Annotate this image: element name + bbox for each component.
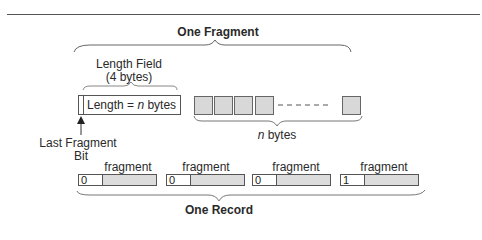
arrow-up-icon — [77, 116, 85, 124]
length-field-value: Length = n bytes — [87, 98, 176, 112]
payload-byte — [234, 96, 253, 115]
length-field-label: Length Field — [96, 57, 162, 71]
last-fragment-bit-cell — [79, 96, 84, 114]
fragment-label: fragment — [182, 160, 229, 174]
fragment-flag: 0 — [252, 174, 277, 186]
fragment-brace — [74, 40, 351, 52]
last-fragment-bit-label: Last Fragment — [39, 136, 116, 150]
fragment-data — [102, 174, 157, 186]
record-title: One Record — [185, 203, 253, 217]
fragment-flag: 0 — [78, 174, 103, 186]
fragment-flag: 1 — [340, 174, 365, 186]
payload-size-label: n bytes — [258, 128, 297, 142]
record-brace — [77, 190, 425, 201]
payload-byte — [194, 96, 213, 115]
fragment-data — [190, 174, 245, 186]
length-field-box: Length = n bytes — [78, 95, 181, 115]
last-fragment-bit-label-line2: Bit — [74, 149, 88, 163]
fragment-label: fragment — [272, 160, 319, 174]
payload-brace — [194, 116, 362, 126]
fragment-label: fragment — [360, 160, 407, 174]
payload-byte — [214, 96, 233, 115]
payload-byte — [255, 96, 274, 115]
fragment-data — [364, 174, 419, 186]
fragment-label: fragment — [104, 160, 151, 174]
fragment-data — [276, 174, 331, 186]
fragment-flag: 0 — [166, 174, 191, 186]
length-field-size: (4 bytes) — [106, 70, 153, 84]
payload-byte-last — [342, 96, 361, 115]
